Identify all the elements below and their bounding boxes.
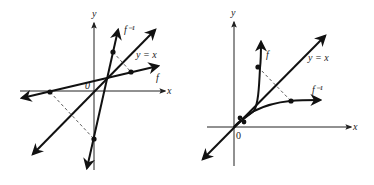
f-line (22, 66, 158, 98)
f-label: f (156, 72, 160, 83)
point-on-f (47, 89, 52, 94)
point-on-f (255, 64, 260, 69)
point-on-f-inverse (110, 49, 115, 54)
reflection-dashed-line (258, 67, 291, 101)
identity-label: y = x (307, 52, 329, 63)
origin-label: 0 (236, 130, 241, 141)
y-axis-label: y (230, 7, 236, 18)
point-on-f (128, 69, 133, 74)
nonlinear-inverse-graph: x y 0 y = x f f⁻¹ (203, 7, 358, 166)
y-axis-label: y (91, 8, 97, 19)
point-on-f-inverse (91, 136, 96, 141)
linear-inverse-graph: x y 0 y = x f f⁻¹ (20, 8, 172, 170)
f-curve (234, 42, 261, 127)
f-inverse-label: f⁻¹ (124, 24, 135, 35)
x-axis-label: x (166, 85, 172, 96)
f-inverse-label: f⁻¹ (312, 84, 323, 95)
x-axis-label: x (352, 121, 358, 132)
identity-label: y = x (135, 49, 157, 60)
point-on-f-inverse (288, 98, 293, 103)
identity-line (203, 36, 325, 159)
inverse-functions-diagram: x y 0 y = x f f⁻¹ x y 0 y = x f f (0, 0, 374, 185)
f-label: f (266, 49, 270, 60)
